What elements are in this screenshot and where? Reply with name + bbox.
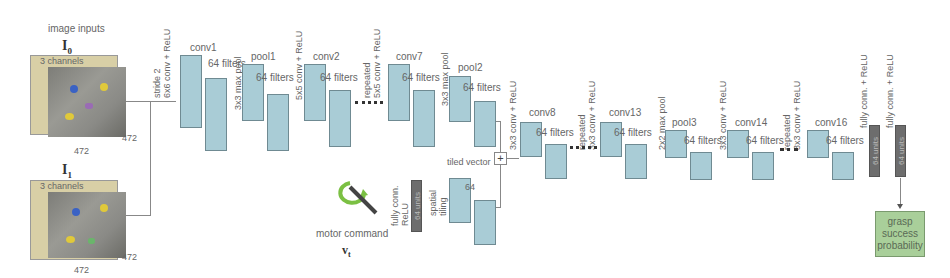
op-label: 3x3 conv + ReLU — [508, 81, 518, 150]
filter-count: 64 filters — [826, 135, 864, 146]
op-label: fully conn. — [390, 185, 400, 226]
op-label: fully conn. + ReLU — [885, 54, 895, 128]
op-label: 3x3 conv + ReLU — [792, 81, 802, 150]
filter-count: 64 filters — [746, 135, 784, 146]
filter-count: 64 filters — [320, 72, 358, 83]
motor-command-var: vt — [342, 243, 351, 259]
op-label: repeated — [362, 62, 372, 98]
layer-name: pool1 — [251, 51, 275, 62]
repeat-dots — [780, 148, 798, 151]
layer-name: conv13 — [609, 107, 641, 118]
filter-count: 64 filters — [402, 72, 440, 83]
filter-count: 64 — [465, 182, 475, 192]
filter-count: 64 filters — [256, 72, 294, 83]
op-label: fully conn. + ReLU — [859, 54, 869, 128]
scene-photo — [48, 67, 126, 137]
input-i0-label: I0 — [62, 38, 72, 56]
op-label: 5x5 conv + ReLU — [294, 31, 304, 100]
op-label: repeated — [782, 114, 792, 150]
connector-line — [507, 158, 519, 159]
connector-line — [126, 101, 176, 102]
connector-line — [500, 121, 501, 152]
motor-command-icon — [330, 175, 380, 220]
connector-line — [496, 207, 501, 208]
input-i1-label: I1 — [62, 162, 72, 180]
channels-label: 3 channels — [40, 56, 84, 66]
layer-name: conv14 — [735, 117, 767, 128]
repeat-dots — [570, 146, 597, 149]
connector-line — [150, 101, 151, 215]
channels-label: 3 channels — [40, 181, 84, 191]
filter-count: 64 filters — [463, 82, 501, 93]
input-width-label: 472 — [74, 265, 89, 275]
input-image-i1: 3 channels — [30, 180, 130, 265]
filter-count: 64 filters — [536, 127, 574, 138]
filter-count: 64 filters — [614, 127, 652, 138]
op-label: 6x6 conv + ReLU — [162, 29, 172, 98]
input-height-label: 472 — [122, 252, 137, 262]
arrow-down-icon — [897, 204, 903, 209]
image-inputs-title: image inputs — [48, 23, 105, 34]
output-grasp-success-probability: grasp success probability — [875, 211, 925, 257]
layer-name: conv8 — [529, 107, 556, 118]
input-image-i0: 3 channels — [30, 55, 130, 140]
tiled-vector-title: tiled vector — [447, 158, 477, 167]
layer-name: pool2 — [458, 62, 482, 73]
motor-fc-layer: 64 units — [411, 180, 422, 232]
fc-layer-1: 64 units — [869, 125, 880, 177]
layer-name: conv1 — [190, 42, 217, 53]
input-width-label: 472 — [74, 146, 89, 156]
repeat-dots — [355, 101, 383, 104]
layer-name: pool3 — [672, 117, 696, 128]
op-label: ReLU — [400, 203, 410, 226]
op-label: stride 2 — [152, 68, 162, 98]
connector-line — [500, 165, 501, 207]
scene-photo — [48, 192, 126, 258]
connector-line — [900, 178, 901, 206]
op-label: 5x5 conv + ReLU — [372, 29, 382, 98]
fc-layer-2: 64 units — [895, 125, 906, 177]
connector-line — [126, 215, 151, 216]
layer-name: conv16 — [815, 117, 847, 128]
op-label: tiling — [438, 197, 448, 216]
merge-add-node: + — [494, 152, 507, 165]
layer-name: conv2 — [313, 51, 340, 62]
op-label: 3x3 conv + ReLU — [587, 81, 597, 150]
motor-command-label: motor command — [316, 228, 388, 239]
filter-count: 64 filters — [684, 135, 722, 146]
op-label: spatial — [428, 190, 438, 216]
input-height-label: 472 — [122, 133, 137, 143]
op-label: repeated — [577, 114, 587, 150]
layer-name: conv7 — [396, 51, 423, 62]
